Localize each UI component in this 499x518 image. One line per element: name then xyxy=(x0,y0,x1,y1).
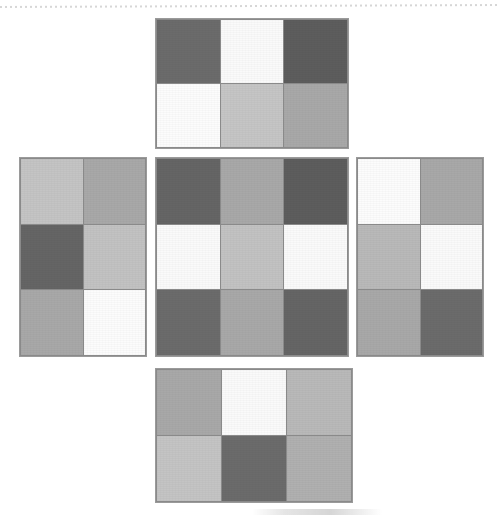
grid-cell xyxy=(157,159,220,224)
grid-cell xyxy=(84,225,146,290)
grid-cell xyxy=(421,290,483,355)
grid-cell xyxy=(221,159,284,224)
grid-cell xyxy=(284,84,347,147)
grid-cell xyxy=(21,159,83,224)
grid-cell xyxy=(157,370,221,435)
grid-cell xyxy=(358,290,420,355)
grid-cell xyxy=(221,225,284,290)
grid-cell xyxy=(222,436,286,501)
grid-panel-top xyxy=(156,19,348,148)
grid-cell xyxy=(157,20,220,83)
grid-cell xyxy=(84,290,146,355)
grid-cell xyxy=(157,225,220,290)
grid-cell xyxy=(222,370,286,435)
grid-panel-left xyxy=(20,158,146,356)
grid-panel-center xyxy=(156,158,348,356)
grid-cell xyxy=(284,159,347,224)
grid-cell xyxy=(157,436,221,501)
grid-cell xyxy=(21,290,83,355)
grid-panel-bottom xyxy=(156,369,352,502)
grid-cell xyxy=(221,290,284,355)
grid-cell xyxy=(284,225,347,290)
grid-cell xyxy=(421,159,483,224)
grid-cell xyxy=(287,436,351,501)
grid-cell xyxy=(284,290,347,355)
top-dotted-rule xyxy=(0,4,499,8)
scan-smudge xyxy=(252,509,382,515)
grid-cell xyxy=(21,225,83,290)
grid-cell xyxy=(221,84,284,147)
grid-cell xyxy=(284,20,347,83)
grid-cell xyxy=(421,225,483,290)
grid-cell xyxy=(84,159,146,224)
grid-cell xyxy=(358,159,420,224)
grid-cell xyxy=(287,370,351,435)
grid-cell xyxy=(358,225,420,290)
grid-cell xyxy=(157,290,220,355)
grid-cell xyxy=(221,20,284,83)
grid-cell xyxy=(157,84,220,147)
grid-panel-right xyxy=(357,158,483,356)
